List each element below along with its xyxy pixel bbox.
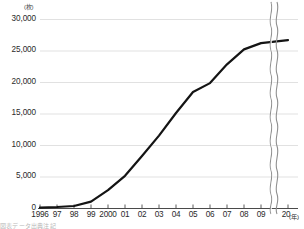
data-series-line bbox=[40, 40, 288, 208]
x-axis-unit-label: (年) bbox=[289, 212, 299, 221]
chart-plot-area bbox=[0, 0, 304, 229]
axis-break-wavy-icon bbox=[270, 2, 278, 214]
footer-caption: 図表データ出典注記 bbox=[0, 221, 304, 229]
chart-container: (枚) 30,000 25,000 20,000 15,000 10,000 5… bbox=[0, 0, 304, 229]
x-tick-label-09: 09 bbox=[250, 210, 272, 219]
